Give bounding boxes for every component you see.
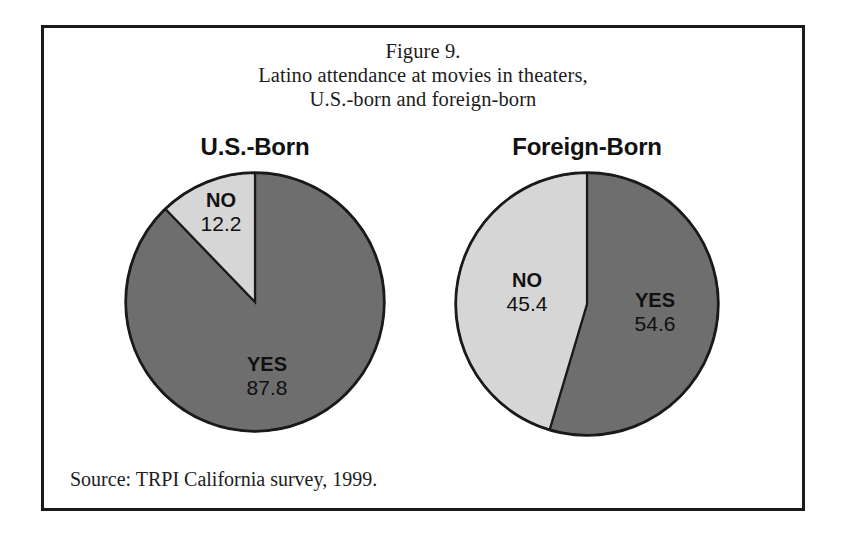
figure-frame: Figure 9. Latino attendance at movies in… (41, 25, 805, 511)
chart-panel-foreign-born: Foreign-Born NO 45.4 YES 54.6 (422, 133, 752, 437)
pie-chart-us-born: NO 12.2 YES 87.8 (124, 171, 386, 433)
pie-chart-foreign-born: NO 45.4 YES 54.6 (454, 171, 720, 437)
figure-title-line-1: Figure 9. (44, 39, 802, 63)
figure-title-line-3: U.S.-born and foreign-born (44, 87, 802, 111)
chart-panel-us-born: U.S.-Born NO 12.2 YES 87.8 (96, 133, 414, 433)
figure-title-line-2: Latino attendance at movies in theaters, (44, 63, 802, 87)
chart-title-us-born: U.S.-Born (96, 133, 414, 161)
pie-chart-us-born-svg (124, 171, 386, 433)
chart-title-foreign-born: Foreign-Born (422, 133, 752, 161)
source-note: Source: TRPI California survey, 1999. (70, 468, 377, 491)
figure-title: Figure 9. Latino attendance at movies in… (44, 39, 802, 111)
pie-chart-foreign-born-svg (454, 171, 720, 437)
